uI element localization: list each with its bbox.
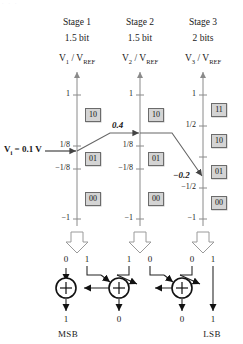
stage-1-code-10: 10 bbox=[85, 108, 101, 122]
route-s2b1 bbox=[117, 266, 129, 275]
input-signal-label: Vi = 0.1 V bbox=[4, 144, 42, 156]
lsb-label: LSB bbox=[203, 329, 220, 339]
stage-3-code-11: 11 bbox=[211, 103, 227, 117]
route-s1b1 bbox=[87, 266, 101, 275]
decision-bit-stage1-lsb: 1 bbox=[85, 254, 90, 264]
stage-3-tick-neg-1: −1 bbox=[187, 213, 196, 222]
stage-1-code-01: 01 bbox=[85, 152, 101, 166]
residue-value-stage1: 0.4 bbox=[112, 120, 123, 130]
stage-2-tick-1-8: 1/8 bbox=[123, 140, 133, 149]
stage-1-tick-1: 1 bbox=[66, 89, 70, 98]
stage-3-tick-neg-1-2: −1/2 bbox=[181, 182, 196, 191]
diagram-canvas bbox=[0, 0, 243, 344]
stage-2-tick-1: 1 bbox=[129, 89, 133, 98]
stage-3-code-01: 01 bbox=[211, 165, 227, 179]
decision-bit-stage3-msb: 0 bbox=[190, 254, 195, 264]
route-s3b0 bbox=[180, 266, 192, 275]
residue-value-stage2: −0.2 bbox=[173, 170, 190, 180]
stage-3-axis bbox=[199, 72, 207, 226]
decision-bit-stage1-msb: 0 bbox=[64, 254, 69, 264]
output-bit-2: 0 bbox=[180, 314, 185, 324]
msb-label: MSB bbox=[58, 329, 78, 339]
quantizer-arrow-3 bbox=[192, 232, 214, 253]
stage-2-tick-neg-1-8: −1/8 bbox=[118, 163, 133, 172]
stage-3-code-10: 10 bbox=[211, 134, 227, 148]
stage-1-tick-neg-1: −1 bbox=[61, 213, 70, 222]
input-signal-value: = 0.1 V bbox=[15, 144, 42, 154]
route-s1b1-arrow bbox=[101, 275, 110, 282]
output-bit-0: 1 bbox=[64, 314, 69, 324]
stage-3-tick-1: 1 bbox=[192, 89, 196, 98]
stage-1-code-00: 00 bbox=[85, 192, 101, 206]
stage-2-code-00: 00 bbox=[148, 192, 164, 206]
stage-2-code-10: 10 bbox=[148, 108, 164, 122]
quantizer-block-arrows bbox=[66, 232, 214, 253]
stage-2-axis bbox=[136, 72, 144, 226]
route-s2b0-arrow bbox=[164, 275, 173, 282]
decision-bit-stage2-msb: 1 bbox=[127, 254, 132, 264]
stage-1-tick-1-8: 1/8 bbox=[60, 140, 70, 149]
output-bit-3: 1 bbox=[211, 314, 216, 324]
quantizer-arrow-1 bbox=[66, 232, 88, 253]
output-bit-1: 0 bbox=[117, 314, 122, 324]
stage-2-tick-neg-1: −1 bbox=[124, 213, 133, 222]
stage-3-tick-1-2: 1/2 bbox=[186, 120, 196, 129]
decision-bit-stage2-lsb: 0 bbox=[148, 254, 153, 264]
quantizer-arrow-2 bbox=[129, 232, 151, 253]
route-s2b0 bbox=[150, 266, 164, 275]
stage-3-code-00: 00 bbox=[211, 196, 227, 210]
input-signal-sub: i bbox=[11, 149, 13, 156]
decision-bit-stage3-lsb: 1 bbox=[211, 254, 216, 264]
stage-1-tick-neg-1-8: −1/8 bbox=[55, 163, 70, 172]
stage-2-code-01: 01 bbox=[148, 152, 164, 166]
